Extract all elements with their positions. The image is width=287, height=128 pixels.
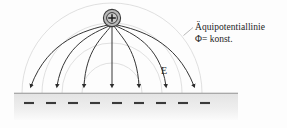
field-line-3 [84,26,111,86]
field-line-1 [31,25,108,86]
potential-constant-label: Φ= konst. [195,35,287,45]
field-line-6 [116,26,166,86]
conductor-body [14,94,238,120]
field-strength-label: E [161,66,167,77]
field-line-5 [114,26,139,86]
field-lines-group [31,25,194,86]
legend-block: Äquipotentiallinie Φ= konst. [195,23,287,45]
electric-field-diagram [0,0,287,128]
figure-container: Äquipotentiallinie Φ= konst. E [0,0,287,128]
leader-line-equipotential [184,28,194,36]
point-charge [103,9,120,26]
equipotential-label: Äquipotentiallinie [195,23,287,33]
